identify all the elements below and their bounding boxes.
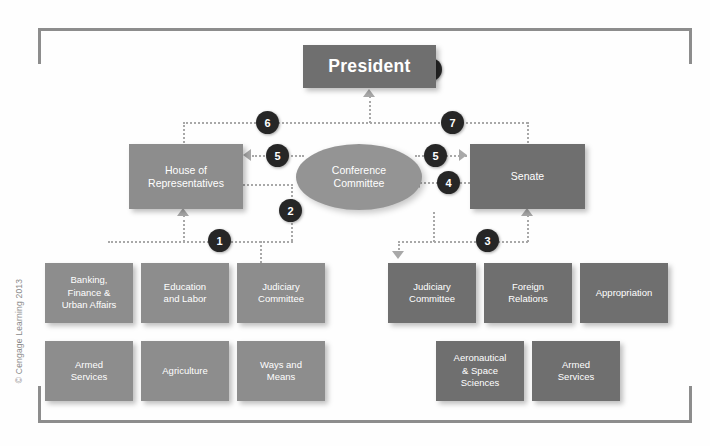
node-conference-label-line1: Conference [332, 164, 386, 176]
step-circle-6: 6 [256, 111, 279, 134]
connector-house-step2-out [243, 184, 293, 186]
arrowhead-to-senate-committees [392, 251, 404, 259]
committee-box[interactable]: Banking, Finance & Urban Affairs [45, 263, 133, 323]
connector-to-house-committees [260, 241, 262, 263]
node-senate[interactable]: Senate [470, 144, 585, 209]
committee-label-line2: Means [267, 371, 296, 382]
committee-label-line2: & Space [462, 365, 498, 376]
arrowhead-to-house-bottom [177, 208, 189, 216]
frame-bottom-edge [38, 420, 692, 423]
committee-label-line1: Ways and [260, 359, 302, 370]
committee-box[interactable]: Foreign Relations [484, 263, 572, 323]
committee-box[interactable]: Aeronautical & Space Sciences [436, 341, 524, 401]
committee-label-line2: Committee [258, 293, 304, 304]
node-conference-label: Conference Committee [332, 164, 386, 190]
diagram-canvas: © Cengage Learning 2013 1 2 3 4 5 5 6 7 … [0, 0, 710, 446]
connector-lower-bus-left [108, 241, 293, 243]
node-conference-label-line2: Committee [334, 177, 385, 189]
committee-label-line1: Education [164, 281, 206, 292]
committee-label-line1: Judiciary [262, 281, 300, 292]
frame-left-bottom-corner [38, 386, 41, 423]
committee-label-line1: Banking, [71, 274, 108, 285]
connector-senate-drop-stub [433, 212, 435, 242]
step-circle-1: 1 [208, 229, 231, 252]
committee-label-line2: Services [558, 371, 594, 382]
committee-box[interactable]: Armed Services [45, 341, 133, 401]
committee-box[interactable]: Education and Labor [141, 263, 229, 323]
committee-box[interactable]: Judiciary Committee [388, 263, 476, 323]
committee-label-line1: Armed [562, 359, 590, 370]
committee-label-line1: Foreign [512, 281, 544, 292]
frame-top-edge [38, 28, 692, 31]
connector-president-riser [369, 96, 371, 123]
step-circle-5-house: 5 [266, 144, 289, 167]
committee-label-line2: Committee [409, 293, 455, 304]
frame-left-top-corner [38, 28, 41, 64]
node-president-label: President [328, 56, 410, 77]
committee-label-line1: Appropriation [596, 287, 653, 299]
node-house-label-line2: Representatives [148, 177, 224, 189]
committee-box[interactable]: Armed Services [532, 341, 620, 401]
committee-label-line2: Finance & [68, 287, 111, 298]
committee-label-line2: and Labor [164, 293, 207, 304]
connector-house-bottom-riser [183, 215, 185, 242]
node-house-of-representatives[interactable]: House of Representatives [129, 144, 243, 209]
frame-right-top-corner [689, 28, 692, 64]
node-senate-label: Senate [511, 170, 544, 183]
node-house-label-line1: House of [165, 164, 207, 176]
connector-lower-bus-right [398, 241, 528, 243]
connector-top-bus [183, 122, 528, 124]
committee-box[interactable]: Appropriation [580, 263, 668, 323]
node-house-label: House of Representatives [148, 164, 224, 190]
connector-senate-bottom-riser [527, 215, 529, 242]
arrowhead-to-senate [459, 149, 467, 161]
frame-right-bottom-corner [689, 386, 692, 423]
step-circle-3: 3 [476, 229, 499, 252]
node-president[interactable]: President [303, 45, 436, 88]
copyright-notice: © Cengage Learning 2013 [14, 266, 24, 396]
committee-label-line3: Sciences [461, 377, 500, 388]
committee-label-line1: Agriculture [162, 365, 207, 377]
committee-box[interactable]: Judiciary Committee [237, 263, 325, 323]
committee-label-line2: Services [71, 371, 107, 382]
committee-label-line1: Armed [75, 359, 103, 370]
arrowhead-to-senate-bottom [521, 208, 533, 216]
committee-label-line3: Urban Affairs [62, 299, 117, 310]
arrowhead-to-president [363, 89, 375, 97]
committee-label-line2: Relations [508, 293, 548, 304]
step-circle-7: 7 [441, 111, 464, 134]
node-conference-committee[interactable]: Conference Committee [296, 144, 422, 210]
step-circle-5-senate: 5 [424, 144, 447, 167]
committee-box[interactable]: Agriculture [141, 341, 229, 401]
committee-label-line1: Aeronautical [454, 352, 507, 363]
committee-label-line1: Judiciary [413, 281, 451, 292]
step-circle-2: 2 [279, 199, 302, 222]
committee-box[interactable]: Ways and Means [237, 341, 325, 401]
arrowhead-to-house [243, 149, 251, 161]
step-circle-4: 4 [437, 171, 460, 194]
